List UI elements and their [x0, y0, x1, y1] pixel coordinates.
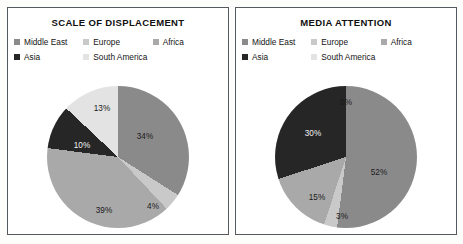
legend-swatch-europe: [311, 39, 317, 45]
legend-label-middle-east: Middle East: [24, 37, 67, 47]
legend-item-middle-east: Middle East: [14, 37, 83, 47]
legend-item-asia: Asia: [14, 52, 83, 62]
pie-slice-label: 13%: [94, 104, 110, 113]
pie-slice-label: 4%: [147, 202, 159, 211]
legend-label-south-america: South America: [93, 52, 147, 62]
panel-title-scale-of-displacement: SCALE OF DISPLACEMENT: [8, 17, 228, 28]
legend-swatch-south-america: [83, 54, 89, 60]
legend-label-south-america: South America: [321, 52, 375, 62]
legend-swatch-asia: [14, 54, 20, 60]
legend-item-asia: Asia: [242, 52, 311, 62]
pie-slice-label: 15%: [309, 193, 325, 202]
legend-item-middle-east: Middle East: [242, 37, 311, 47]
legend-swatch-middle-east: [14, 39, 20, 45]
legend-label-asia: Asia: [252, 52, 268, 62]
legend-swatch-south-america: [311, 54, 317, 60]
legend-swatch-asia: [242, 54, 248, 60]
panel-media-attention: MEDIA ATTENTION Middle East Europe Afric…: [235, 7, 457, 235]
legend-item-south-america: South America: [83, 52, 222, 62]
legend-item-africa: Africa: [153, 37, 222, 47]
legend-label-africa: Africa: [163, 37, 184, 47]
legend-label-asia: Asia: [24, 52, 40, 62]
legend-label-africa: Africa: [391, 37, 412, 47]
legend-swatch-middle-east: [242, 39, 248, 45]
pie-slice-label: 34%: [137, 132, 153, 141]
pie-chart-scale-of-displacement: 34%4%39%10%13%: [47, 86, 189, 228]
legend-label-europe: Europe: [321, 37, 348, 47]
pie-area-media-attention: 52%3%15%30%0%: [236, 86, 456, 235]
legend-label-europe: Europe: [93, 37, 120, 47]
pie-slice-label: 39%: [96, 206, 112, 215]
legend-label-middle-east: Middle East: [252, 37, 295, 47]
pie-slice-label: 30%: [305, 129, 321, 138]
legend-item-europe: Europe: [83, 37, 152, 47]
legend-swatch-africa: [153, 39, 159, 45]
pie-area-scale-of-displacement: 34%4%39%10%13%: [8, 86, 228, 235]
panel-title-media-attention: MEDIA ATTENTION: [236, 17, 456, 28]
legend-item-africa: Africa: [381, 37, 450, 47]
legend-item-europe: Europe: [311, 37, 380, 47]
legend-swatch-europe: [83, 39, 89, 45]
pie-slice-label: 0%: [340, 98, 352, 107]
legend-swatch-africa: [381, 39, 387, 45]
pie-slice-label: 52%: [371, 168, 387, 177]
legend-media-attention: Middle East Europe Africa Asia South Ame…: [236, 37, 456, 62]
pie-slice-label: 10%: [74, 141, 90, 150]
legend-scale-of-displacement: Middle East Europe Africa Asia South Ame…: [8, 37, 228, 62]
pie-chart-media-attention: 52%3%15%30%0%: [275, 86, 417, 228]
pie-slice-label: 3%: [336, 212, 348, 221]
panel-scale-of-displacement: SCALE OF DISPLACEMENT Middle East Europe…: [7, 7, 229, 235]
pie-chart-figure: SCALE OF DISPLACEMENT Middle East Europe…: [0, 0, 463, 244]
legend-item-south-america: South America: [311, 52, 450, 62]
